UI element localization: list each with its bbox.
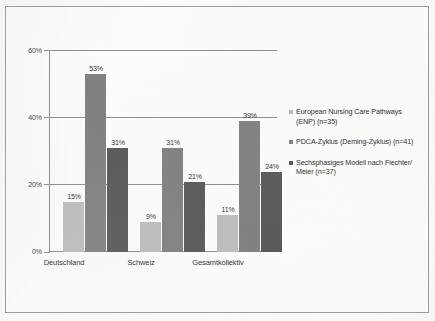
- bar-group-schweiz: 9% 31% 21%: [140, 50, 208, 252]
- bar-label-schweiz-fiechter-meier: 21%: [178, 173, 212, 180]
- plot-area: 15% 53% 31% 9% 31% 21% 11% 39% 24%: [49, 50, 277, 252]
- bar-schweiz-enp[interactable]: [140, 222, 161, 252]
- legend-item-enp[interactable]: European Nursing Care Pathways (ENP) (n=…: [289, 107, 427, 126]
- y-axis-labels: 60% 40% 20% 0%: [0, 0, 42, 321]
- bar-label-gesamtkollektiv-enp: 11%: [211, 206, 245, 213]
- legend-label-enp: European Nursing Care Pathways (ENP) (n=…: [296, 107, 402, 126]
- y-tick-label-60: 60%: [2, 47, 42, 54]
- bar-gesamtkollektiv-enp[interactable]: [217, 215, 238, 252]
- chart-screenshot: 60% 40% 20% 0% 15% 53% 31% 9% 31% 21: [0, 0, 435, 321]
- bar-label-deutschland-enp: 15%: [57, 193, 91, 200]
- bar-deutschland-enp[interactable]: [63, 202, 84, 252]
- bar-gesamtkollektiv-pdca[interactable]: [239, 121, 260, 252]
- bar-label-gesamtkollektiv-fiechter-meier: 24%: [255, 163, 289, 170]
- bar-label-gesamtkollektiv-pdca: 39%: [233, 112, 267, 119]
- bar-label-schweiz-pdca: 31%: [156, 139, 190, 146]
- bar-schweiz-fiechter-meier[interactable]: [184, 182, 205, 252]
- bar-label-deutschland-pdca: 53%: [79, 65, 113, 72]
- bar-label-schweiz-enp: 9%: [134, 213, 168, 220]
- bar-gesamtkollektiv-fiechter-meier[interactable]: [261, 172, 282, 252]
- legend-label-fiechter-meier: Sechsphasiges Modell nach Fiechter/ Meie…: [296, 158, 412, 177]
- bar-deutschland-pdca[interactable]: [85, 74, 106, 252]
- bar-label-deutschland-fiechter-meier: 31%: [101, 139, 135, 146]
- y-tick-label-40: 40%: [2, 114, 42, 121]
- legend-marker-enp-icon: [289, 110, 293, 114]
- y-tick-label-20: 20%: [2, 181, 42, 188]
- bar-schweiz-pdca[interactable]: [162, 148, 183, 252]
- bar-group-gesamtkollektiv: 11% 39% 24%: [217, 50, 285, 252]
- legend-marker-pdca-icon: [289, 140, 293, 144]
- bar-deutschland-fiechter-meier[interactable]: [107, 148, 128, 252]
- legend-item-pdca[interactable]: PDCA-Zyklus (Deming-Zyklus) (n=41): [289, 137, 427, 147]
- x-axis-label-gesamtkollektiv: Gesamtkollektiv: [168, 258, 268, 267]
- legend-marker-fiechter-meier-icon: [289, 161, 293, 165]
- y-tick-label-0: 0%: [2, 248, 42, 255]
- bar-group-deutschland: 15% 53% 31%: [63, 50, 131, 252]
- legend-item-fiechter-meier[interactable]: Sechsphasiges Modell nach Fiechter/ Meie…: [289, 158, 427, 177]
- chart-legend: European Nursing Care Pathways (ENP) (n=…: [289, 107, 427, 188]
- legend-label-pdca: PDCA-Zyklus (Deming-Zyklus) (n=41): [296, 137, 413, 147]
